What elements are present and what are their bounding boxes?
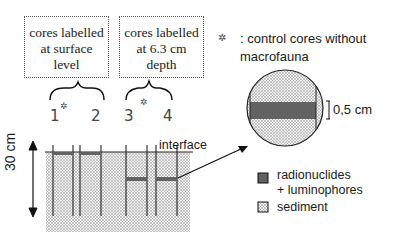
scale-bracket bbox=[326, 101, 330, 119]
sediment-block bbox=[46, 152, 190, 232]
control-star-icon: ✲ bbox=[60, 101, 68, 111]
tracer-core-4 bbox=[156, 177, 177, 181]
core-label-3: 3 bbox=[124, 107, 134, 125]
box-line: at 6.3 cm bbox=[120, 41, 203, 57]
legend-swatch-sediment bbox=[258, 202, 268, 212]
control-star-icon: ✲ bbox=[218, 32, 226, 43]
depth-arrow bbox=[29, 141, 37, 217]
brace-depth bbox=[126, 81, 172, 100]
box-line: cores labelled bbox=[25, 25, 108, 41]
box-line: depth bbox=[120, 57, 203, 73]
control-legend-line2: macrofauna bbox=[240, 50, 309, 64]
magnified-view bbox=[245, 68, 325, 150]
box-line: level bbox=[25, 57, 108, 73]
control-star-icon: ✲ bbox=[140, 97, 148, 107]
box-line: at surface bbox=[25, 41, 108, 57]
core-label-2: 2 bbox=[91, 107, 101, 125]
box-surface: cores labelled at surface level bbox=[24, 16, 109, 78]
tracer-core-1 bbox=[53, 152, 73, 155]
core-label-1: 1 bbox=[50, 107, 60, 125]
tracer-core-2 bbox=[80, 152, 101, 155]
scale-label: 0,5 cm bbox=[333, 103, 372, 117]
legend-tracer-line1: radionuclides bbox=[277, 168, 351, 182]
box-line: cores labelled bbox=[120, 25, 203, 41]
core-label-4: 4 bbox=[163, 107, 173, 125]
box-depth: cores labelled at 6.3 cm depth bbox=[119, 16, 204, 78]
legend-sediment: sediment bbox=[277, 200, 328, 214]
depth-label: 30 cm bbox=[2, 131, 18, 171]
legend-tracer-line2: + luminophores bbox=[277, 183, 363, 197]
interface-label: interface bbox=[159, 138, 207, 152]
brace-surface bbox=[50, 82, 104, 100]
legend-swatch-tracer bbox=[258, 173, 268, 183]
control-legend-line1: : control cores without bbox=[240, 32, 366, 46]
tracer-core-3 bbox=[126, 177, 147, 181]
